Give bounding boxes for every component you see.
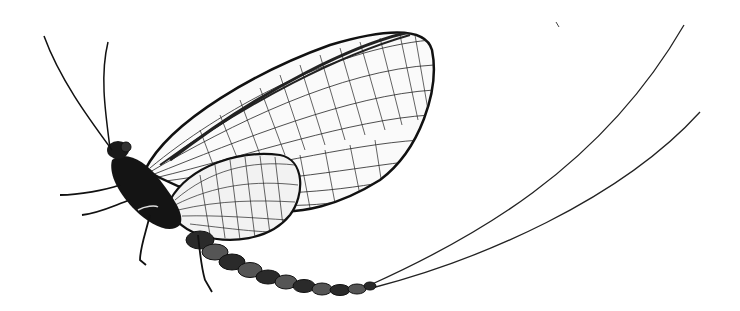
eye bbox=[121, 142, 131, 152]
stray-mark bbox=[556, 22, 559, 27]
mayfly-drawing bbox=[0, 0, 740, 311]
mayfly-illustration bbox=[0, 0, 740, 311]
antennae bbox=[44, 36, 112, 150]
abdomen bbox=[186, 231, 376, 296]
